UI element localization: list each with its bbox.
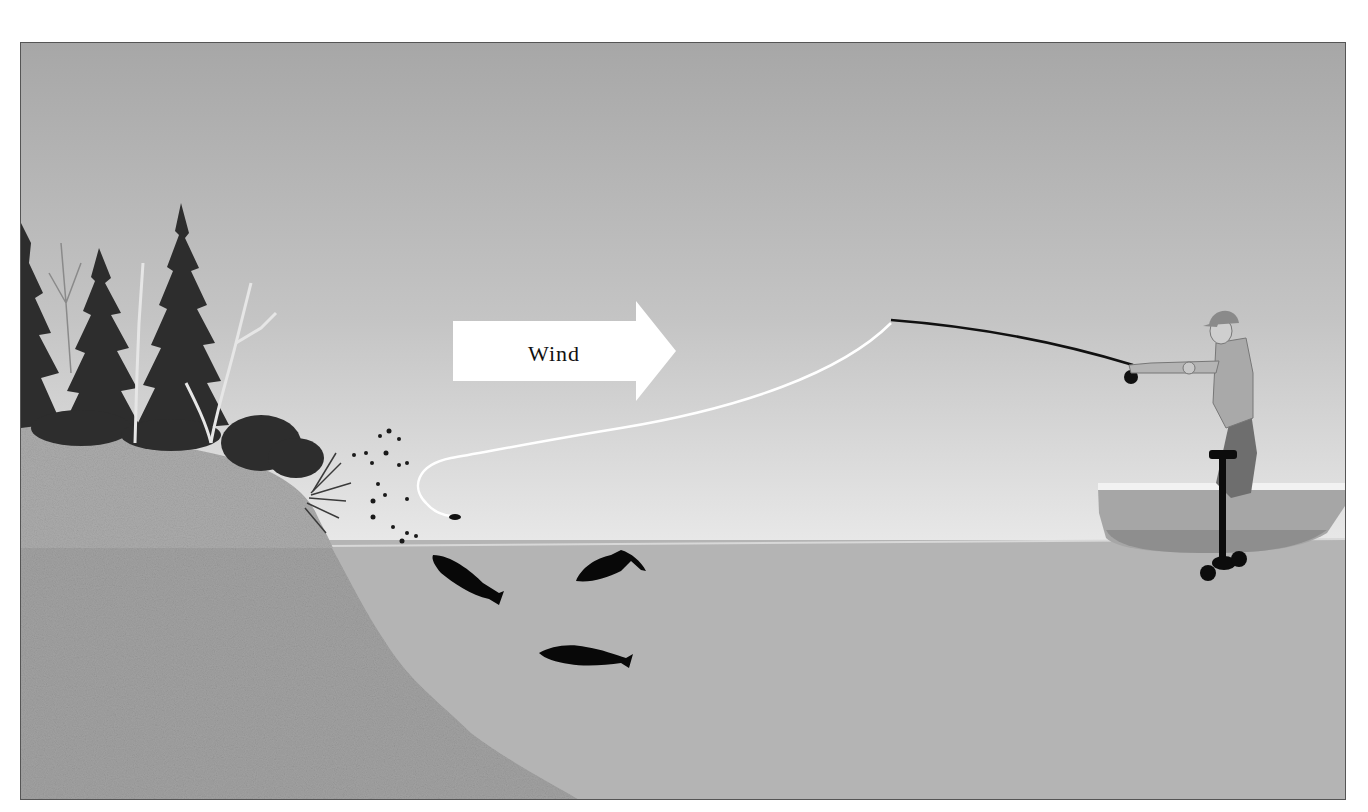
illustration-frame: Wind <box>20 42 1346 800</box>
fishing-scene <box>21 43 1346 800</box>
wind-label: Wind <box>469 333 639 375</box>
fly-icon <box>449 514 461 520</box>
